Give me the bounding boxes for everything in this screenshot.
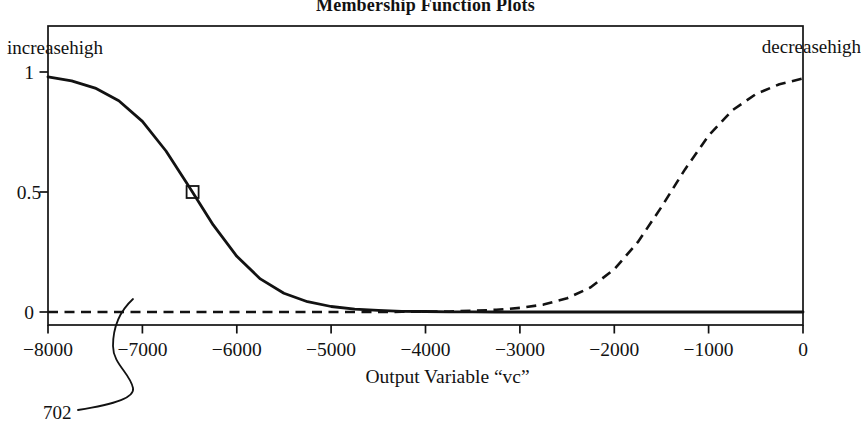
x-tick-label: 0 [798,339,808,360]
decreasehigh-curve [48,79,803,313]
x-tick-label: −5000 [306,339,356,360]
y-tick-label: 0.5 [17,182,41,203]
series-label-increasehigh: increasehigh [7,37,103,59]
y-tick-label: 1 [24,62,34,83]
x-tick-label: −7000 [117,339,167,360]
x-tick-label: −4000 [401,339,451,360]
x-tick-label: −3000 [495,339,545,360]
plot-border [48,26,803,325]
x-tick-label: −6000 [212,339,262,360]
series-label-decreasehigh: decreasehigh [762,36,861,58]
membership-function-figure: Membership Function Plots −8000−7000−600… [0,0,861,446]
reference-number-702: 702 [43,402,72,424]
x-tick-label: −2000 [589,339,639,360]
increasehigh-curve [48,77,803,312]
y-tick-label: 0 [24,302,34,323]
x-tick-label: −1000 [684,339,734,360]
x-tick-label: −8000 [23,339,73,360]
y-axis-tick-labels: 00.51 [17,62,41,323]
x-axis-ticks [48,325,803,334]
x-axis-tick-labels: −8000−7000−6000−5000−4000−3000−2000−1000… [23,339,808,360]
x-axis-title: Output Variable “vc” [55,366,840,388]
